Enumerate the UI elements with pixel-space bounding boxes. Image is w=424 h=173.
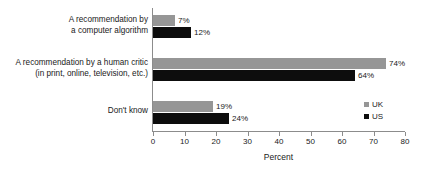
x-tick-label-10: 10 <box>180 137 189 147</box>
bar-value-us-2: 24% <box>232 113 248 124</box>
chart-legend: UK US <box>364 98 383 122</box>
x-tick-label-0: 0 <box>151 137 155 147</box>
x-tick-20 <box>216 132 217 136</box>
category-label-0: A recommendation by a computer algorithm <box>0 14 148 36</box>
legend-item-us: US <box>364 110 383 122</box>
bar-uk-1 <box>153 58 386 69</box>
x-tick-0 <box>153 132 154 136</box>
category-label-1: A recommendation by a human critic (in p… <box>0 57 148 79</box>
bar-uk-2 <box>153 101 213 112</box>
category-label-0-line1: A recommendation by <box>0 14 148 25</box>
x-tick-80 <box>405 132 406 136</box>
legend-label-uk: UK <box>372 99 383 110</box>
x-tick-label-70: 70 <box>369 137 378 147</box>
x-tick-60 <box>342 132 343 136</box>
category-label-2: Don't know <box>0 105 148 116</box>
category-label-0-line2: a computer algorithm <box>0 25 148 36</box>
x-tick-30 <box>248 132 249 136</box>
x-tick-label-80: 80 <box>401 137 410 147</box>
x-tick-label-50: 50 <box>306 137 315 147</box>
bar-value-us-0: 12% <box>194 27 210 38</box>
bar-us-0 <box>153 27 191 38</box>
x-tick-label-30: 30 <box>243 137 252 147</box>
bar-us-2 <box>153 113 229 124</box>
bar-value-us-1: 64% <box>358 70 374 81</box>
x-tick-70 <box>374 132 375 136</box>
bar-uk-0 <box>153 15 175 26</box>
legend-label-us: US <box>372 111 383 122</box>
category-label-1-line1: A recommendation by a human critic <box>0 57 148 68</box>
x-tick-10 <box>185 132 186 136</box>
category-label-2-line1: Don't know <box>0 105 148 116</box>
bar-value-uk-1: 74% <box>389 58 405 69</box>
x-tick-label-40: 40 <box>275 137 284 147</box>
x-axis-title: Percent <box>152 152 405 162</box>
bar-us-1 <box>153 70 355 81</box>
x-tick-label-60: 60 <box>338 137 347 147</box>
x-tick-label-20: 20 <box>212 137 221 147</box>
legend-item-uk: UK <box>364 98 383 110</box>
x-tick-50 <box>311 132 312 136</box>
bar-value-uk-0: 7% <box>178 15 190 26</box>
bar-chart: 01020304050607080 Percent A recommendati… <box>0 0 424 173</box>
category-label-1-line2: (in print, online, television, etc.) <box>0 68 148 79</box>
x-tick-40 <box>279 132 280 136</box>
legend-swatch-us-icon <box>364 114 369 119</box>
bar-value-uk-2: 19% <box>216 101 232 112</box>
legend-swatch-uk-icon <box>364 102 369 107</box>
